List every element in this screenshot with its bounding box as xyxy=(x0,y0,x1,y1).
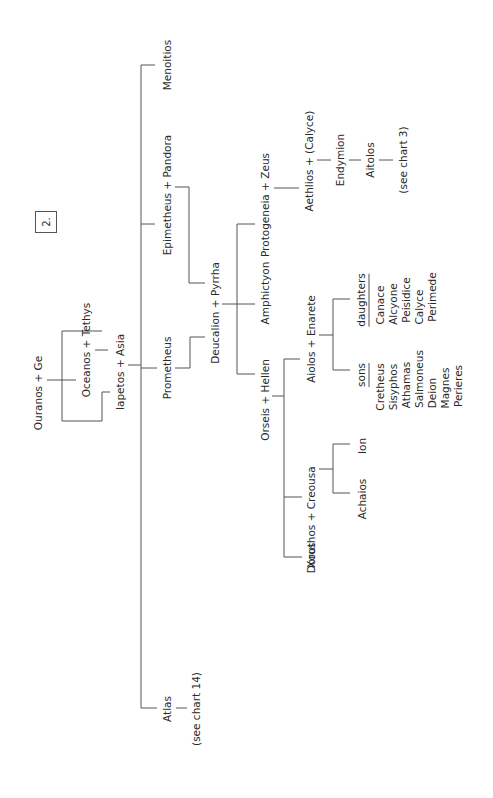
daughters-header: daughters xyxy=(355,273,370,326)
node-oceanos-tethys: Oceanos + Tethys xyxy=(80,303,92,398)
node-epimetheus-pandora: Epimetheus + Pandora xyxy=(161,135,173,256)
son-name: Athamas xyxy=(400,362,412,408)
daughter-name: Canace xyxy=(374,285,386,324)
node-doros: Doros xyxy=(305,543,317,574)
node-orseis-hellen: Orseis + Hellen xyxy=(259,359,271,441)
daughter-name: Peisidice xyxy=(400,277,412,323)
node-amphictyon: Amphictyon xyxy=(259,262,271,325)
chart-number: 2. xyxy=(41,217,52,227)
son-name: Sisyphos xyxy=(387,364,399,410)
chart-number-box: 2. xyxy=(35,211,57,233)
node-deucalion-pyrrha: Deucalion + Pyrrha xyxy=(209,262,221,364)
son-name: Perieres xyxy=(452,365,464,407)
daughter-name: Perimede xyxy=(426,272,438,321)
ref-atlas-chart: (see chart 14) xyxy=(190,672,202,746)
node-ouranos-ge: Ouranos + Ge xyxy=(32,356,44,430)
daughter-name: Alcyone xyxy=(387,283,399,325)
daughter-name: Calyce xyxy=(413,289,425,324)
genealogy-chart: 2. Ouranos + Ge Oceanos + Tethys Iapetos… xyxy=(0,0,493,798)
node-prometheus: Prometheus xyxy=(161,337,173,400)
node-ion: Ion xyxy=(356,438,368,454)
ref-aitolos-chart: (see chart 3) xyxy=(397,126,409,193)
node-iapetos-asia: Iapetos + Asia xyxy=(114,334,126,410)
sons-header: sons xyxy=(355,363,370,387)
node-menoitios: Menoitios xyxy=(161,40,173,90)
son-name: Cretheus xyxy=(374,363,386,410)
node-endymion: Endymion xyxy=(334,134,346,186)
node-aitolos: Aitolos xyxy=(364,142,376,177)
son-name: Magnes xyxy=(439,368,451,409)
son-name: Salmoneus xyxy=(413,350,425,408)
node-protogeneia-zeus: Protogeneia + Zeus xyxy=(259,153,271,257)
node-aethlios-calyce: Aethlios + (Calyce) xyxy=(303,111,315,212)
son-name: Deion xyxy=(426,378,438,409)
node-atlas: Atlas xyxy=(161,696,173,722)
node-achaios: Achaios xyxy=(356,479,368,520)
node-aiolos-enarete: Aiolos + Enarete xyxy=(305,295,317,383)
